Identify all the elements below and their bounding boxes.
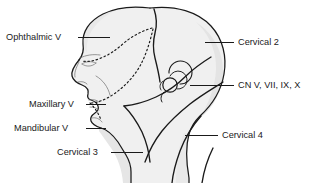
anatomical-diagram-figure: Ophthalmic V Cervical 2 CN V, VII, IX, X… xyxy=(0,0,318,183)
label-cervical-2: Cervical 2 xyxy=(238,38,279,47)
label-mandibular-v: Mandibular V xyxy=(14,124,68,133)
label-ophthalmic-v: Ophthalmic V xyxy=(6,33,61,42)
label-maxillary-v: Maxillary V xyxy=(29,100,74,109)
c4-posterior-contour xyxy=(202,148,213,183)
label-cervical-4: Cervical 4 xyxy=(222,131,263,140)
head-neck-dermatome-drawing xyxy=(0,0,318,183)
label-cn-v-vii-ix-x: CN V, VII, IX, X xyxy=(238,81,300,90)
label-cervical-3: Cervical 3 xyxy=(57,148,98,157)
